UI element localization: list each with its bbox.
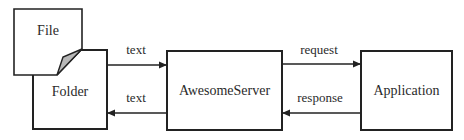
edge-label: text <box>126 90 146 105</box>
server-node: AwesomeServer <box>167 51 282 130</box>
edge-label: response <box>297 90 343 105</box>
server-label: AwesomeServer <box>179 83 271 98</box>
edge-server-to-application: request <box>282 42 360 64</box>
application-label: Application <box>373 83 439 98</box>
file-label: File <box>37 23 59 38</box>
folder-label: Folder <box>52 84 89 99</box>
edge-folder-to-server: text <box>107 42 166 65</box>
edge-label: text <box>126 42 146 57</box>
application-node: Application <box>361 51 452 130</box>
edge-application-to-server: response <box>283 90 361 113</box>
architecture-diagram: File Folder AwesomeServer Application te… <box>0 0 464 140</box>
edge-server-to-folder: text <box>108 90 167 113</box>
edge-label: request <box>300 42 338 57</box>
